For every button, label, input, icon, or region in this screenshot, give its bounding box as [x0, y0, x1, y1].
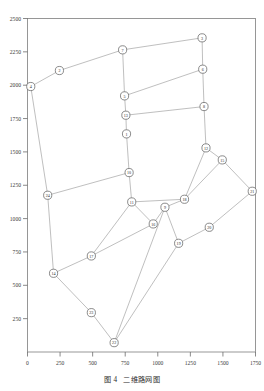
- network-edge: [184, 160, 222, 199]
- network-edge: [203, 69, 204, 106]
- network-node: 10: [125, 168, 133, 176]
- node-label: 7: [122, 48, 124, 53]
- network-edge: [31, 87, 48, 196]
- network-edge: [209, 191, 252, 227]
- node-label: 12: [204, 146, 208, 151]
- x-tick-label: 500: [88, 360, 97, 366]
- network-node: 24: [44, 191, 52, 199]
- node-label: 21: [250, 189, 254, 194]
- y-tick-label: 1500: [10, 149, 21, 155]
- network-edge: [202, 38, 203, 69]
- node-label: 20: [207, 225, 211, 230]
- network-node: 4: [27, 82, 35, 90]
- network-edge: [48, 195, 54, 273]
- node-label: 16: [151, 222, 155, 227]
- network-edge: [48, 173, 129, 196]
- network-node: 17: [87, 252, 95, 260]
- network-node: 12: [202, 144, 210, 152]
- node-label: 14: [52, 271, 56, 276]
- node-label: 10: [127, 170, 131, 175]
- y-tick-label: 2000: [10, 82, 21, 88]
- network-node: 13: [122, 111, 130, 119]
- network-edge: [184, 148, 205, 199]
- caption-text: 二维路网图: [123, 376, 160, 384]
- x-tick-label: 1500: [217, 360, 228, 366]
- network-node: 2: [55, 66, 63, 74]
- network-edge: [222, 160, 252, 191]
- y-tick-label: 750: [13, 249, 22, 255]
- network-node: 22: [110, 339, 118, 347]
- y-axis-tick-labels: 2505007501000125015001750200022502500: [10, 16, 21, 322]
- x-tick-label: 750: [121, 360, 130, 366]
- node-label: 11: [130, 200, 134, 205]
- network-node: 18: [180, 195, 188, 203]
- node-label: 3: [201, 36, 203, 41]
- x-tick-label: 0: [26, 360, 29, 366]
- network-node: 8: [200, 102, 208, 110]
- network-node: 11: [128, 198, 136, 206]
- node-label: 24: [46, 193, 50, 198]
- road-network-plot: 2505007501000125015001750200022502500 02…: [0, 0, 264, 391]
- network-edge: [204, 107, 206, 148]
- network-node: 23: [87, 309, 95, 317]
- network-edge: [132, 202, 153, 224]
- network-node: 21: [248, 187, 256, 195]
- y-tick-label: 250: [13, 316, 22, 322]
- figure-caption: 图 4二维路网图: [0, 374, 264, 384]
- x-axis-tick-labels: 02505007501000125015001750: [26, 360, 261, 366]
- network-edge: [54, 273, 92, 312]
- node-label: 8: [203, 104, 205, 109]
- network-node: 1: [122, 130, 130, 138]
- network-node: 19: [175, 239, 183, 247]
- network-edge: [126, 107, 204, 116]
- network-edge: [165, 207, 179, 243]
- figure-container: 2505007501000125015001750200022502500 02…: [0, 0, 264, 391]
- node-label: 4: [30, 84, 32, 89]
- x-axis-ticks: [28, 352, 256, 357]
- y-tick-label: 1000: [10, 216, 21, 222]
- network-edge: [123, 50, 125, 96]
- network-edge: [91, 313, 114, 343]
- x-tick-label: 1000: [152, 360, 163, 366]
- network-edges: [31, 38, 252, 343]
- network-edge: [114, 243, 178, 342]
- node-label: 2: [58, 68, 60, 73]
- network-node: 5: [120, 92, 128, 100]
- network-node: 14: [49, 269, 57, 277]
- x-tick-label: 250: [56, 360, 65, 366]
- node-label: 23: [89, 310, 93, 315]
- y-tick-label: 1750: [10, 116, 21, 122]
- y-tick-label: 500: [13, 282, 22, 288]
- node-label: 18: [182, 197, 186, 202]
- network-node: 20: [205, 223, 213, 231]
- x-tick-label: 1750: [250, 360, 261, 366]
- x-tick-label: 1250: [185, 360, 196, 366]
- node-label: 13: [124, 113, 128, 118]
- network-edge: [114, 207, 165, 342]
- y-axis-ticks: [23, 19, 28, 319]
- network-edge: [91, 202, 131, 256]
- network-edge: [54, 256, 92, 273]
- node-label: 22: [112, 340, 116, 345]
- network-node: 9: [161, 203, 169, 211]
- node-label: 1: [125, 132, 127, 137]
- network-node: 7: [119, 46, 127, 54]
- node-label: 9: [164, 205, 166, 210]
- network-node: 6: [199, 65, 207, 73]
- caption-label: 图 4: [104, 376, 117, 384]
- node-label: 15: [220, 158, 224, 163]
- network-edge: [127, 134, 130, 173]
- network-node: 16: [149, 220, 157, 228]
- y-tick-label: 2250: [10, 49, 21, 55]
- node-label: 6: [202, 67, 204, 72]
- network-edge: [123, 38, 202, 50]
- network-node: 3: [198, 34, 206, 42]
- node-label: 19: [177, 241, 181, 246]
- node-label: 17: [89, 254, 93, 259]
- network-node: 15: [218, 156, 226, 164]
- network-edge: [132, 199, 185, 202]
- y-tick-label: 1250: [10, 182, 21, 188]
- network-edge: [91, 224, 153, 256]
- network-edge: [125, 69, 203, 96]
- network-edge: [31, 71, 60, 87]
